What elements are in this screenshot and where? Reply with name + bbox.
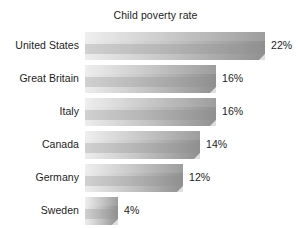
value-label: 4%: [124, 204, 139, 216]
value-label: 16%: [222, 105, 243, 117]
value-label: 12%: [189, 171, 210, 183]
bar-row: United States22%: [0, 30, 301, 63]
bar-body: [85, 164, 183, 193]
category-label: Sweden: [0, 204, 79, 216]
bar-row: Italy16%: [0, 96, 301, 129]
bar-body: [85, 32, 265, 61]
bar-sweden: [85, 197, 118, 226]
bar-row: Great Britain16%: [0, 63, 301, 96]
bar-body: [85, 131, 200, 160]
bar-body: [85, 65, 216, 94]
category-label: Great Britain: [0, 72, 79, 84]
bar-row: Germany12%: [0, 162, 301, 195]
value-label: 16%: [222, 72, 243, 84]
category-label: Italy: [0, 105, 79, 117]
bar-row: Canada14%: [0, 129, 301, 162]
bar-body: [85, 98, 216, 127]
category-label: Germany: [0, 171, 79, 183]
plot-area: United States22%Great Britain16%Italy16%…: [0, 30, 301, 228]
bar-italy: [85, 98, 216, 127]
value-label: 22%: [271, 39, 292, 51]
category-label: Canada: [0, 138, 79, 150]
chart-title: Child poverty rate: [0, 9, 301, 21]
bar-great-britain: [85, 65, 216, 94]
category-label: United States: [0, 39, 79, 51]
bar-germany: [85, 164, 183, 193]
child-poverty-bar-chart: Child poverty rate United States22%Great…: [0, 0, 301, 228]
value-label: 14%: [206, 138, 227, 150]
bar-canada: [85, 131, 200, 160]
bar-row: Sweden4%: [0, 195, 301, 228]
bar-body: [85, 197, 118, 226]
bar-united-states: [85, 32, 265, 61]
